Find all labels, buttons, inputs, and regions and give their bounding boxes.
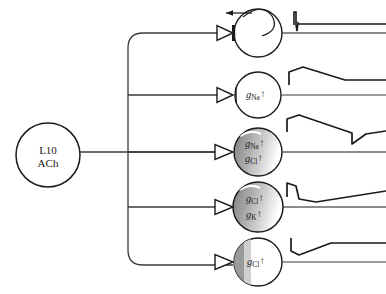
target-1-recurrent-arrowhead	[226, 10, 233, 16]
target-2-soma	[235, 72, 281, 118]
trace-biphasic	[287, 115, 386, 144]
l10-soma-circle	[16, 123, 80, 187]
target-5-synapse-triangle	[215, 255, 233, 270]
trace-ipsp	[291, 238, 386, 255]
target-2-synapse-triangle	[217, 88, 233, 103]
trace-fast-epsp-slow-ipsp	[287, 183, 386, 202]
trace-epsp	[289, 67, 386, 85]
target-3-synapse-triangle	[215, 145, 233, 160]
trace-action-potential	[294, 12, 386, 31]
target-4-synapse-triangle	[215, 200, 233, 215]
target-1-synapse-triangle	[217, 26, 233, 41]
target-5-shade-soft	[244, 238, 251, 286]
target-1-soma	[234, 9, 282, 57]
neural-circuit-diagram	[0, 0, 386, 294]
figure-canvas: L10 ACh gNa↑ gNa↑ gCl↑ gCl↑ gK↑ gCl↑	[0, 0, 386, 294]
